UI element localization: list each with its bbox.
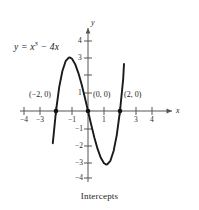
x-axis [20, 107, 172, 115]
figure-intercepts-graph: y = x3 − 4x x y −4 −3 −1 1 3 4 4 3 1 −1 … [0, 0, 199, 210]
intercept-dot-origin [86, 109, 91, 114]
x-tick-label-1: 1 [102, 116, 106, 124]
y-axis [84, 28, 92, 182]
equation-rhs: − 4x [38, 42, 59, 52]
point-label-neg2: (−2, 0) [29, 90, 51, 99]
y-tick-label-neg2: −2 [75, 142, 83, 150]
x-tick-label-neg1: −1 [68, 116, 76, 124]
equation-lhs: y = x [14, 42, 35, 52]
equation-label: y = x3 − 4x [14, 40, 59, 52]
x-tick-label-4: 4 [150, 116, 154, 124]
x-tick-label-neg4: −4 [20, 116, 28, 124]
x-tick-label-neg3: −3 [36, 116, 44, 124]
y-tick-label-neg1: −1 [75, 125, 83, 133]
y-tick-label-neg3: −3 [75, 159, 83, 167]
intercept-dot-neg2 [54, 109, 59, 114]
cartesian-plot [0, 0, 199, 210]
y-tick-label-neg4: −4 [75, 174, 83, 182]
y-tick-label-1: 1 [78, 89, 82, 97]
x-axis-arrow [167, 109, 173, 114]
y-tick-label-4: 4 [78, 37, 82, 45]
point-label-origin: (0, 0) [93, 90, 110, 99]
y-tick-label-3: 3 [78, 54, 82, 62]
y-axis-name: y [91, 18, 95, 27]
point-label-pos2: (2, 0) [124, 90, 141, 99]
x-tick-label-3: 3 [134, 116, 138, 124]
intercept-dot-pos2 [118, 109, 123, 114]
y-axis-arrow [86, 28, 91, 34]
x-axis-name: x [176, 106, 180, 115]
figure-caption: Intercepts [0, 191, 199, 201]
